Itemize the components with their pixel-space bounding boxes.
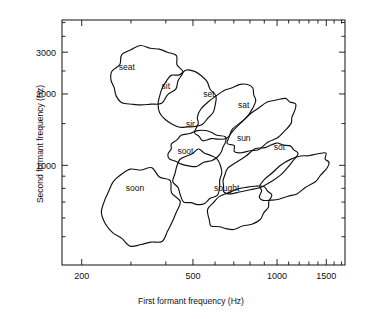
x-tick-label: 1000 [267, 271, 287, 281]
vowel-label-sir: sir [186, 119, 195, 129]
vowel-label-sought: sought [214, 183, 240, 193]
vowel-label-sun: sun [237, 133, 251, 143]
vowel-label-soot: soot [177, 146, 194, 156]
x-axis-title: First formant frequency (Hz) [0, 290, 382, 308]
vowel-ellipse-soot [173, 149, 222, 205]
chart-canvas: 20050010001500100020003000seatsitsetsats… [0, 0, 382, 319]
vowel-label-sot: sot [274, 142, 286, 152]
x-tick-label: 200 [74, 271, 89, 281]
vowel-label-sit: sit [162, 81, 171, 91]
vowel-label-sat: sat [238, 100, 250, 110]
x-axis-title-text: First formant frequency (Hz) [138, 296, 244, 306]
x-tick-label: 500 [185, 271, 200, 281]
plot-frame [62, 20, 345, 265]
vowel-label-seat: seat [119, 62, 136, 72]
y-axis-title: Second formant frequency (Hz) [29, 24, 47, 264]
y-axis-title-text: Second formant frequency (Hz) [35, 85, 45, 203]
vowel-ellipse-soon [101, 167, 180, 246]
vowel-label-set: set [203, 89, 215, 99]
vowel-formant-chart: 20050010001500100020003000seatsitsetsats… [0, 0, 382, 319]
x-tick-label: 1500 [316, 271, 336, 281]
vowel-label-soon: soon [126, 183, 145, 193]
